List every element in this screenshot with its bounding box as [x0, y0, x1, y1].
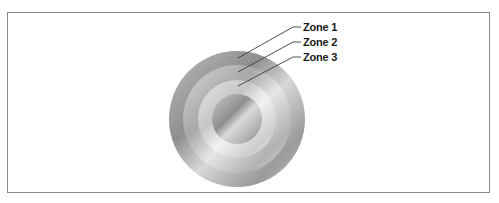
zone-1-label: Zone 1	[303, 21, 337, 33]
zone-2-label: Zone 2	[303, 36, 337, 48]
zone-3-label: Zone 3	[303, 51, 337, 63]
concentric-zones-diagram: Zone 1 Zone 2 Zone 3	[0, 0, 499, 203]
core-disc	[212, 94, 262, 144]
